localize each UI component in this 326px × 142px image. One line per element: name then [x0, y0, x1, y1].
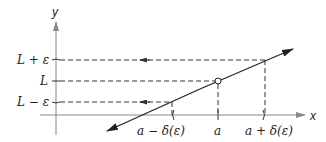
epsilon-delta-diagram: y x L + ε L L − ε a − δ(ε) a a + δ(ε)	[0, 0, 326, 142]
function-line	[107, 49, 293, 131]
vertical-dashed-guides	[172, 60, 265, 115]
horizontal-dashed-guides	[60, 60, 265, 102]
y-axis-label: y	[51, 5, 59, 19]
open-circle-point	[215, 78, 221, 84]
x-tick-label-a-plus-delta: a + δ(ε)	[245, 124, 293, 138]
x-tick-label-a: a	[214, 124, 221, 138]
x-axis-label: x	[309, 109, 317, 123]
y-tick-label-L: L	[39, 74, 48, 88]
x-axis: x	[40, 109, 317, 123]
x-tick-label-a-minus-delta: a − δ(ε)	[137, 124, 185, 138]
y-tick-label-L-plus-epsilon: L + ε	[16, 53, 49, 67]
y-tick-label-L-minus-epsilon: L − ε	[16, 95, 49, 109]
